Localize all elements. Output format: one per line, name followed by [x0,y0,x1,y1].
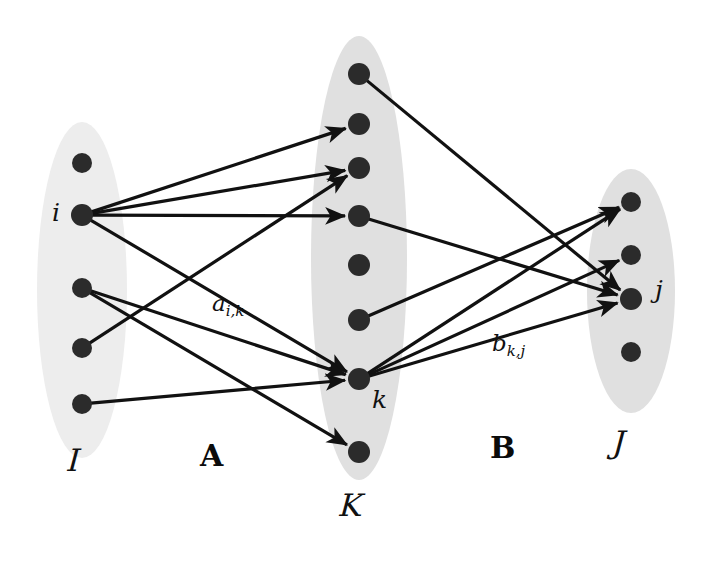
graph-node-i1[interactable] [72,153,92,173]
graph-node-i[interactable] [71,204,93,226]
matrix-label-A: A [200,438,223,473]
set-label-J: J [613,424,626,460]
graph-node-i5[interactable] [72,394,92,414]
node-label-i: i [52,198,60,227]
edge-weight-label-a-ik: ai,k [212,290,244,320]
edges-group-a [90,128,348,444]
graph-node-k1[interactable] [348,63,370,85]
graph-node-k5[interactable] [348,254,370,276]
graph-node-k3[interactable] [348,157,370,179]
graph-node-j[interactable] [620,288,642,310]
set-label-I: I [68,442,81,478]
set-label-K: K [340,487,364,523]
node-label-k: k [372,385,387,414]
graph-node-j2[interactable] [621,245,641,265]
edge-weight-label-b-kj: bk,j [492,330,525,360]
edge-a-i-to-k3 [92,170,345,213]
graph-node-k4[interactable] [348,205,370,227]
graph-node-k8[interactable] [348,441,370,463]
edge-a-i5-to-k [91,380,345,403]
matrix-label-B: B [490,430,515,465]
edge-a-i-to-k4 [92,215,345,216]
node-label-j: j [655,275,663,304]
graph-node-k6[interactable] [348,309,370,331]
graph-node-i4[interactable] [72,338,92,358]
graph-node-k2[interactable] [348,113,370,135]
graph-node-k[interactable] [348,368,370,390]
graph-node-i3[interactable] [72,278,92,298]
graph-node-j4[interactable] [621,342,641,362]
edge-a-i-to-k2 [92,128,346,212]
diagram-canvas: I K J A B i k j ai,k bk,j [0,0,706,561]
graph-svg [0,0,706,561]
graph-node-j1[interactable] [621,192,641,212]
